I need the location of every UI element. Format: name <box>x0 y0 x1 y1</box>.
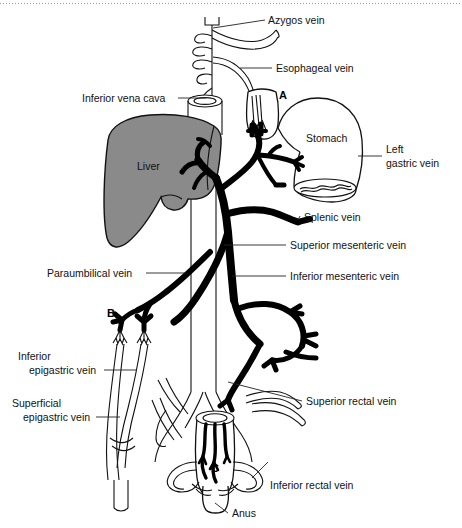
label-inferior-epigastric-vein-line1: Inferior <box>18 350 51 362</box>
label-inferior-rectal-vein: Inferior rectal vein <box>270 479 354 491</box>
marker-b: B <box>107 307 115 319</box>
marker-a: A <box>279 89 287 101</box>
label-azygos-vein: Azygos vein <box>268 14 325 26</box>
caput-medusae-radicles <box>113 330 151 345</box>
label-inferior-epigastric-vein-line2: epigastric vein <box>29 364 96 376</box>
label-inferior-vena-cava: Inferior vena cava <box>82 92 166 104</box>
label-superior-mesenteric-vein: Superior mesenteric vein <box>290 239 406 251</box>
label-superior-rectal-vein: Superior rectal vein <box>306 395 397 407</box>
label-left-gastric-vein-line2: gastric vein <box>386 157 439 169</box>
leader-inferior-rectal <box>252 462 268 478</box>
azygos-vein-group <box>193 17 279 100</box>
marker-c: C <box>211 462 219 474</box>
label-splenic-vein: Splenic vein <box>304 211 361 223</box>
label-paraumbilical-vein: Paraumbilical vein <box>47 267 132 279</box>
leader-azygos <box>213 20 265 28</box>
label-anus: Anus <box>232 507 256 519</box>
liver-group <box>104 114 221 246</box>
epigastric-veins-group <box>107 344 149 511</box>
label-superficial-epigastric-vein-line1: Superficial <box>12 397 61 409</box>
label-liver: Liver <box>137 160 160 172</box>
label-superficial-epigastric-vein-line2: epigastric vein <box>23 411 90 423</box>
label-left-gastric-vein-line1: Left <box>386 143 404 155</box>
diagram-canvas: Azygos vein Esophageal vein Inferior ven… <box>0 0 462 528</box>
label-stomach: Stomach <box>306 132 348 144</box>
portosystemic-anastomoses-figure: Azygos vein Esophageal vein Inferior ven… <box>0 0 462 528</box>
esophagus-stomach-group <box>247 89 363 202</box>
label-esophageal-vein: Esophageal vein <box>276 62 354 74</box>
label-inferior-mesenteric-vein: Inferior mesenteric vein <box>290 270 399 282</box>
